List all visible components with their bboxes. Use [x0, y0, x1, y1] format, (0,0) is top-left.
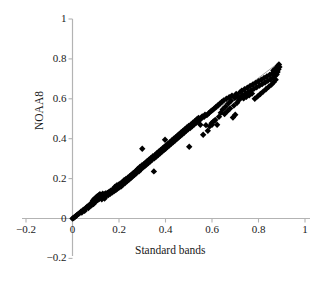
y-tick-label: −0.2 — [25, 252, 67, 263]
scatter-point — [200, 132, 206, 138]
y-tick-label: 0.6 — [25, 93, 67, 104]
x-axis-ticks — [26, 219, 305, 223]
x-axis-title: Standard bands — [135, 245, 206, 257]
x-tick-label: 0.6 — [192, 224, 232, 235]
x-tick-label: −0.2 — [6, 224, 46, 235]
scatter-point — [151, 168, 157, 174]
x-tick-label: 0 — [53, 224, 93, 235]
y-tick-label: 0.2 — [25, 173, 67, 184]
x-tick-label: 0.4 — [146, 224, 186, 235]
y-tick-label: 0.8 — [25, 53, 67, 64]
x-tick-label: 1 — [285, 224, 325, 235]
scatter-point — [139, 145, 145, 151]
x-tick-label: 0.8 — [239, 224, 279, 235]
y-axis-title: NOAA8 — [34, 91, 46, 130]
y-tick-label: 1 — [25, 13, 67, 24]
y-tick-label: 0.4 — [25, 133, 67, 144]
scatter-point — [186, 143, 192, 149]
y-tick-label: 0 — [25, 213, 67, 224]
x-tick-label: 0.2 — [99, 224, 139, 235]
scatter-points — [69, 61, 282, 221]
scatter-chart-figure: −0.200.20.40.60.81 10.80.60.40.20−0.2 St… — [0, 0, 334, 282]
